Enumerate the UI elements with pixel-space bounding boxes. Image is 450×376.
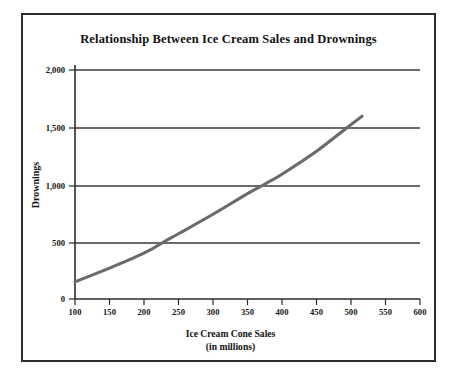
figure-frame: Relationship Between Ice Cream Sales and…	[21, 13, 436, 362]
x-tick-label: 200	[138, 307, 151, 317]
chart-plot-area: 2,000 1,500 1,000 500 0 100 150 200 250	[23, 15, 438, 364]
y-tick-label: 500	[52, 238, 65, 248]
x-tick-label: 600	[414, 307, 427, 317]
y-tick-label: 1,500	[46, 123, 65, 133]
x-tick-label: 400	[276, 307, 289, 317]
y-axis-title: Drownings	[30, 162, 41, 209]
y-tick-label: 1,000	[46, 181, 65, 191]
x-axis-title-block: Ice Cream Cone Sales (in millions)	[23, 327, 438, 353]
y-tick-labels: 2,000 1,500 1,000 500 0	[46, 65, 65, 304]
gridlines	[75, 70, 420, 243]
x-tick-label: 350	[241, 307, 254, 317]
x-tick-label: 450	[310, 307, 323, 317]
data-series-line	[75, 116, 362, 282]
x-tick-marks	[75, 299, 420, 305]
y-tick-marks	[69, 70, 75, 299]
x-tick-label: 550	[379, 307, 392, 317]
x-axis-title-units: (in millions)	[23, 340, 438, 353]
x-tick-labels: 100 150 200 250 300 350 400 450 500 550 …	[69, 307, 427, 317]
x-tick-label: 250	[172, 307, 185, 317]
y-tick-label: 0	[61, 294, 65, 304]
x-tick-label: 500	[345, 307, 358, 317]
x-tick-label: 100	[69, 307, 82, 317]
y-tick-label: 2,000	[46, 65, 65, 75]
x-tick-label: 150	[103, 307, 116, 317]
x-axis-title: Ice Cream Cone Sales	[23, 327, 438, 340]
x-tick-label: 300	[207, 307, 220, 317]
